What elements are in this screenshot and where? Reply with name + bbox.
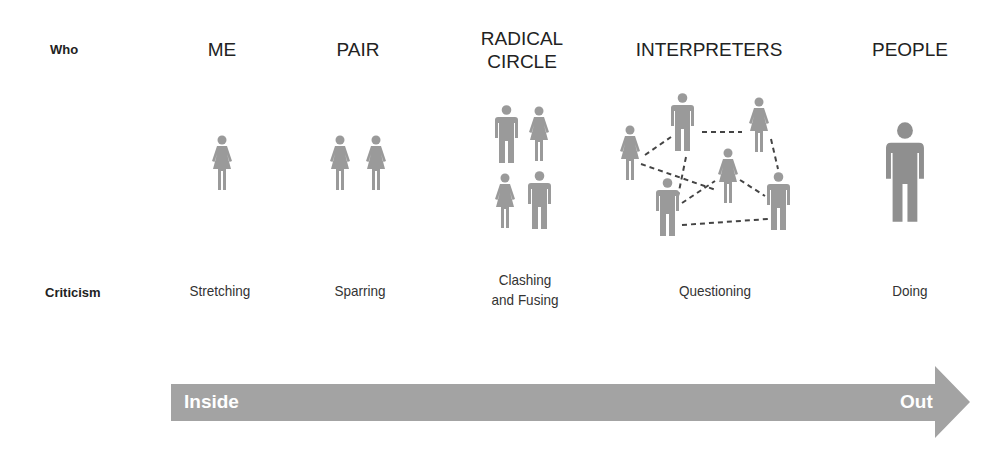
woman-icon: [529, 107, 549, 162]
man-icon: [671, 93, 694, 151]
large-man-icon: [886, 122, 924, 221]
criticism-clashing-fusing: Clashing and Fusing: [470, 270, 580, 310]
arrow-label-inside: Inside: [184, 391, 239, 413]
man-icon: [528, 171, 551, 229]
criticism-sparring: Sparring: [315, 281, 405, 301]
criticism-doing: Doing: [874, 281, 946, 301]
man-icon: [767, 172, 790, 230]
criticism-questioning: Questioning: [661, 281, 769, 301]
criticism-stretching: Stretching: [171, 281, 270, 301]
woman-icon: [212, 136, 232, 191]
woman-icon: [718, 149, 738, 204]
man-icon: [656, 178, 679, 236]
woman-icon: [330, 136, 350, 191]
criticism-clashing-line2: and Fusing: [476, 290, 575, 310]
woman-icon: [749, 98, 769, 153]
arrow-label-out: Out: [900, 391, 933, 413]
criticism-clashing-line1: Clashing: [476, 270, 575, 290]
woman-icon: [620, 126, 640, 181]
man-icon: [495, 105, 518, 163]
woman-icon: [495, 174, 515, 229]
inside-out-arrow: [171, 366, 970, 438]
woman-icon: [366, 136, 386, 191]
figures-layer: [0, 0, 994, 453]
